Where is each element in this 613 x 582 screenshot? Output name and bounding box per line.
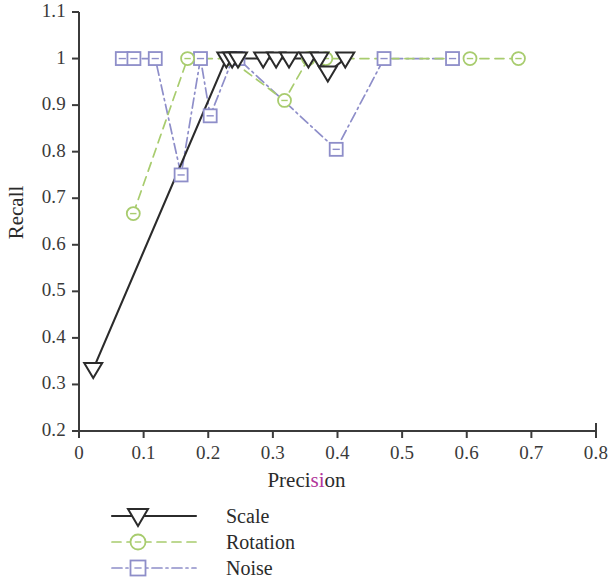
- y-axis-tick-label: 0.7: [0, 186, 66, 208]
- legend-item-noise: Noise: [108, 555, 408, 581]
- chart-legend: Scale Rotation Noise: [108, 503, 408, 581]
- data-marker-square: [330, 143, 343, 156]
- y-axis-tick-label: 0.6: [0, 233, 66, 255]
- legend-key-scale: [108, 503, 204, 529]
- legend-label-rotation: Rotation: [204, 531, 295, 554]
- data-marker-square: [194, 52, 207, 65]
- data-marker-triangle-down: [319, 67, 337, 82]
- data-marker-square: [127, 52, 140, 65]
- y-axis-tick-label: 1.1: [0, 0, 66, 22]
- data-marker-square: [131, 561, 146, 576]
- legend-label-scale: Scale: [204, 505, 269, 528]
- legend-item-scale: Scale: [108, 503, 408, 529]
- legend-key-rotation: [108, 529, 204, 555]
- y-axis-tick-label: 0.8: [0, 140, 66, 162]
- data-marker-square: [446, 52, 459, 65]
- x-axis-title-tinted-span: si: [311, 468, 325, 492]
- y-axis-tick-label: 0.9: [0, 93, 66, 115]
- series-markers-scale: [84, 53, 354, 379]
- series-line-noise: [122, 59, 452, 175]
- x-axis-title: Precision: [0, 468, 613, 493]
- data-marker-circle: [463, 52, 476, 65]
- data-marker-triangle-down: [84, 363, 102, 378]
- series-line-rotation: [133, 59, 518, 214]
- legend-label-noise: Noise: [204, 557, 273, 580]
- y-axis-tick-label: 0.2: [0, 419, 66, 441]
- data-marker-circle: [131, 535, 146, 550]
- series-markers-noise: [116, 52, 459, 181]
- plot-area: [0, 0, 613, 582]
- data-marker-circle: [512, 52, 525, 65]
- data-marker-triangle-down: [128, 509, 148, 526]
- data-marker-square: [149, 52, 162, 65]
- y-axis-tick-label: 0.3: [0, 372, 66, 394]
- data-marker-circle: [127, 207, 140, 220]
- y-axis-tick-label: 0.5: [0, 279, 66, 301]
- legend-item-rotation: Rotation: [108, 529, 408, 555]
- x-axis-tick-label: 0.8: [556, 442, 613, 464]
- data-marker-circle: [181, 52, 194, 65]
- legend-key-noise: [108, 555, 204, 581]
- y-axis-tick-label: 1: [0, 47, 66, 69]
- data-marker-triangle-down: [336, 53, 354, 68]
- data-marker-square: [378, 52, 391, 65]
- y-axis-tick-label: 0.4: [0, 326, 66, 348]
- data-marker-square: [175, 168, 188, 181]
- data-marker-square: [204, 109, 217, 122]
- data-marker-circle: [278, 94, 291, 107]
- data-marker-triangle-down: [280, 53, 298, 68]
- precision-recall-chart: Precision Recall Scale Rotation Noise 0.…: [0, 0, 613, 582]
